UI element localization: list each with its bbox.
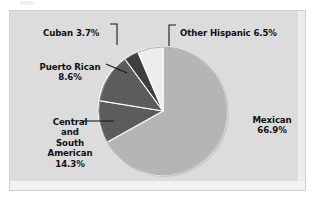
pie-label-central-value: 14.3% — [35, 159, 105, 169]
pie-label-cuban-text: Cuban 3.7% — [43, 28, 99, 38]
scan-artifact — [20, 1, 34, 5]
leader-line-cuban — [110, 24, 117, 45]
pie-label-cuban: Cuban 3.7% — [43, 28, 99, 38]
pie-label-central-south-american: Central and South American 14.3% — [35, 117, 105, 169]
pie-label-mexican: Mexican 66.9% — [242, 115, 302, 136]
pie-label-mexican-name: Mexican — [242, 115, 302, 125]
pie-label-central-line-2: and — [35, 127, 105, 137]
pie-label-central-line-1: Central — [35, 117, 105, 127]
pie-chart-panel: Cuban 3.7% Other Hispanic 6.5% Puerto Ri… — [9, 10, 306, 191]
pie-label-central-line-4: American — [35, 148, 105, 158]
pie-label-puerto-rican-name: Puerto Rican — [27, 62, 113, 72]
pie-label-central-line-3: South — [35, 138, 105, 148]
pie-label-other-hispanic: Other Hispanic 6.5% — [180, 28, 277, 38]
pie-label-other-hispanic-text: Other Hispanic 6.5% — [180, 28, 277, 38]
pie-label-puerto-rican: Puerto Rican 8.6% — [27, 62, 113, 83]
leader-line-other-hispanic — [169, 25, 176, 46]
pie-label-mexican-value: 66.9% — [242, 125, 302, 135]
pie-label-puerto-rican-value: 8.6% — [27, 72, 113, 82]
